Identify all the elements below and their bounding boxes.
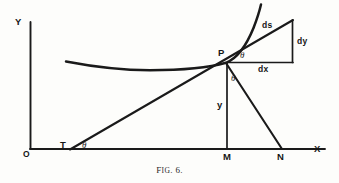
y-axis-label: Y [15,17,22,27]
origin-label: O [23,150,30,159]
x-axis-label: X [314,144,321,154]
figure-caption: FIG. 6. [0,165,339,175]
differential-label-ds: ds [262,21,272,30]
function-curve [66,5,261,71]
figure-container: Y X O T P M N θ θ θ ds dy dx y FIG. 6. [0,0,339,183]
angle-label-theta-at-p-lower: θ [231,74,236,83]
angle-label-theta-at-p-upper: θ [240,51,245,60]
tangent-line-TP [70,20,293,150]
point-label-n: N [277,152,284,162]
point-label-t: T [60,140,66,150]
differential-label-dx: dx [258,65,268,74]
differential-label-dy: dy [297,37,307,46]
caption-suffix: . 6. [170,165,182,175]
figure-drawing-canvas [0,0,339,183]
angle-label-theta-at-t: θ [82,141,87,150]
point-label-p: P [218,48,225,58]
caption-smallcaps: IG [162,166,171,175]
ordinate-label-y: y [217,100,222,110]
point-label-m: M [223,152,231,162]
